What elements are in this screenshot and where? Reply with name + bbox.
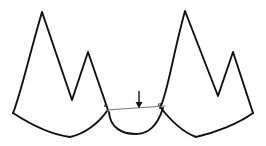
point-label-c: c [104,102,107,109]
point-label-a: a [158,101,162,108]
figure-container: c a [0,0,266,146]
chord-c-a-line [106,106,165,110]
down-arrow-icon [136,91,143,109]
lower-left-arc-path [13,111,107,137]
left-peaks-path [13,12,108,113]
right-peaks-path [160,11,253,113]
central-dip-path [109,108,163,134]
curve-diagram-svg [0,0,266,146]
lower-right-arc-path [161,108,253,137]
